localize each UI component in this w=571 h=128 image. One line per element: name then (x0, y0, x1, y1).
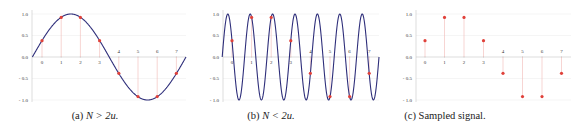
sample-point (348, 95, 351, 98)
y-tick-label: - 1.0 (19, 98, 29, 103)
chart-c-plot: 1.00.50.0- 0.5- 1.001234567 (380, 0, 571, 110)
chart-a-plot: 1.00.50.0- 0.5- 1.001234567 (0, 0, 190, 110)
caption-a: (a) N > 2u. (0, 110, 190, 121)
sample-point (560, 72, 563, 75)
sample-point (289, 39, 292, 42)
sample-point (230, 39, 233, 42)
x-tick-label: 0 (424, 60, 427, 65)
sample-point (156, 95, 159, 98)
x-tick-label: 6 (541, 49, 544, 54)
x-tick-label: 4 (502, 49, 505, 54)
chart-b-plot: 1.00.50.0- 0.5- 1.001234567 (190, 0, 380, 110)
x-tick-label: 2 (463, 60, 466, 65)
x-tick-label: 5 (521, 49, 524, 54)
caption-b-prefix: (b) (247, 110, 262, 121)
caption-b: (b) N < 2u. (176, 110, 366, 121)
sample-point (501, 72, 504, 75)
x-tick-label: 7 (560, 49, 563, 54)
y-tick-label: - 1.0 (210, 98, 220, 103)
caption-c-text: (c) Sampled signal. (404, 110, 485, 121)
x-tick-label: 3 (290, 60, 293, 65)
sample-point (328, 95, 331, 98)
x-tick-label: 1 (250, 60, 253, 65)
y-tick-label: 1.0 (406, 12, 413, 17)
x-tick-label: 7 (175, 49, 178, 54)
x-tick-label: 2 (270, 60, 273, 65)
caption-a-math: N > 2u. (86, 110, 118, 121)
caption-b-math: N < 2u. (262, 110, 294, 121)
sample-point (482, 39, 485, 42)
panel-c: 1.00.50.0- 0.5- 1.001234567 (c) Sampled … (380, 0, 570, 128)
sample-point (98, 39, 101, 42)
x-tick-label: 4 (118, 49, 121, 54)
y-tick-label: 0.5 (22, 33, 29, 38)
sample-point (521, 95, 524, 98)
caption-c: (c) Sampled signal. (350, 110, 540, 121)
sample-point (368, 72, 371, 75)
x-tick-label: 0 (41, 60, 44, 65)
y-tick-label: - 0.5 (403, 76, 413, 81)
y-tick-label: - 0.5 (19, 76, 29, 81)
sample-point (540, 95, 543, 98)
y-tick-label: - 0.5 (210, 76, 220, 81)
panel-a: 1.00.50.0- 0.5- 1.001234567 (a) N > 2u. (0, 0, 190, 128)
y-tick-label: 0.0 (22, 55, 29, 60)
y-tick-label: 0.0 (406, 55, 413, 60)
x-tick-label: 3 (98, 60, 101, 65)
sample-point (175, 72, 178, 75)
y-tick-label: 0.5 (213, 33, 220, 38)
x-tick-label: 6 (348, 49, 351, 54)
y-tick-label: 0.0 (213, 55, 220, 60)
x-tick-label: 2 (79, 60, 82, 65)
x-tick-label: 3 (482, 60, 485, 65)
x-tick-label: 1 (443, 60, 446, 65)
sample-point (79, 16, 82, 19)
y-tick-label: 1.0 (22, 12, 29, 17)
sample-point (40, 39, 43, 42)
sample-point (250, 16, 253, 19)
x-tick-label: 7 (368, 49, 371, 54)
sample-point (136, 95, 139, 98)
sample-point (462, 16, 465, 19)
x-tick-label: 1 (60, 60, 63, 65)
y-tick-label: 0.5 (406, 33, 413, 38)
sample-point (117, 72, 120, 75)
x-tick-label: 5 (329, 49, 332, 54)
y-tick-label: 1.0 (213, 12, 220, 17)
sample-point (443, 16, 446, 19)
panel-b: 1.00.50.0- 0.5- 1.001234567 (b) N < 2u. (190, 0, 380, 128)
x-tick-label: 5 (137, 49, 140, 54)
sample-point (270, 16, 273, 19)
x-tick-label: 6 (156, 49, 159, 54)
sample-point (423, 39, 426, 42)
caption-a-prefix: (a) (72, 110, 86, 121)
y-tick-label: - 1.0 (403, 98, 413, 103)
sample-point (309, 72, 312, 75)
sample-point (60, 16, 63, 19)
